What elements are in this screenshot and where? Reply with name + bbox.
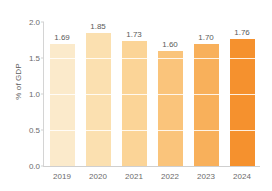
bar-value-label: 1.85: [90, 22, 106, 31]
bar-chart: % of GDP 0.00.51.01.52.0 1.691.851.731.6…: [0, 0, 272, 191]
bar-value-label: 1.76: [234, 28, 250, 37]
bar-value-label: 1.60: [162, 40, 178, 49]
x-axis-label: 2020: [80, 172, 116, 181]
bar-value-label: 1.69: [54, 33, 70, 42]
x-axis-label: 2023: [188, 172, 224, 181]
x-axis-label: 2024: [224, 172, 260, 181]
x-axis-line: [43, 166, 260, 167]
y-tick-label: 1.5: [29, 54, 40, 63]
x-axis-label: 2022: [152, 172, 188, 181]
bar[interactable]: [230, 39, 255, 166]
y-tick-label: 2.0: [29, 18, 40, 27]
bar-value-label: 1.70: [198, 33, 214, 42]
y-tick-label: 1.0: [29, 90, 40, 99]
bar[interactable]: [158, 51, 183, 166]
bar-value-label: 1.73: [126, 30, 142, 39]
bar[interactable]: [122, 41, 147, 166]
bar[interactable]: [194, 44, 219, 166]
y-tick-label: 0.0: [29, 162, 40, 171]
bar-series: 1.691.851.731.601.701.76: [44, 22, 260, 166]
bar-slot: 1.85: [80, 22, 116, 166]
bar[interactable]: [50, 44, 75, 166]
bar-slot: 1.70: [188, 22, 224, 166]
bar-slot: 1.60: [152, 22, 188, 166]
plot-area: 0.00.51.01.52.0 1.691.851.731.601.701.76: [44, 22, 260, 166]
bar-slot: 1.73: [116, 22, 152, 166]
y-tick-label: 0.5: [29, 126, 40, 135]
bar-slot: 1.69: [44, 22, 80, 166]
x-axis-label: 2021: [116, 172, 152, 181]
x-axis-labels: 201920202021202220232024: [44, 172, 260, 181]
bar[interactable]: [86, 33, 111, 166]
y-axis-title: % of GDP: [14, 47, 23, 117]
x-axis-label: 2019: [44, 172, 80, 181]
bar-slot: 1.76: [224, 22, 260, 166]
